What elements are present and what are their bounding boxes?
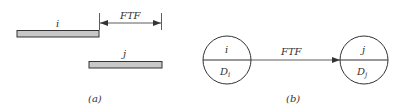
panel-a: i j FTF (a) [17, 10, 162, 104]
bar-i [17, 31, 99, 38]
lag-label: FTF [119, 10, 142, 21]
bar-i-label: i [56, 18, 59, 29]
diagram-canvas: i j FTF (a) i Di FTF j Dj (b) [0, 0, 402, 111]
bar-j-label: j [121, 48, 126, 59]
ftf-link-label: FTF [280, 46, 303, 57]
node-j-bottom: Dj [356, 66, 368, 79]
node-i: i Di [203, 36, 251, 84]
node-i-bottom: Di [219, 66, 230, 79]
bar-j [89, 62, 162, 69]
node-j-top: j [360, 44, 365, 55]
node-j: j Dj [340, 36, 388, 84]
node-i-top: i [225, 44, 228, 55]
panel-b: i Di FTF j Dj (b) [203, 36, 388, 104]
caption-b: (b) [286, 93, 300, 104]
caption-a: (a) [88, 93, 102, 104]
